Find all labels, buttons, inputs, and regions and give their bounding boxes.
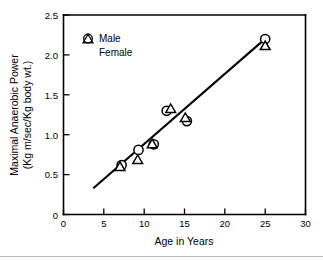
x-axis-tick-labels: 0 5 10 15 20 25 30 <box>61 218 311 229</box>
x-axis-title: Age in Years <box>155 235 214 247</box>
x-tick-label-30: 30 <box>300 218 311 229</box>
y-tick-label-0-5: 0.5 <box>45 169 58 180</box>
x-tick-label-10: 10 <box>139 218 150 229</box>
x-tick-label-5: 5 <box>101 218 106 229</box>
x-tick-label-0: 0 <box>61 218 66 229</box>
data-point-male <box>134 145 143 154</box>
y-axis-title-line2: (Kg m/sec/Kg body wt.) <box>21 61 33 170</box>
y-axis-tick-labels: 0 0.5 1.0 1.5 2.0 2.5 <box>45 10 58 221</box>
y-axis-title: Maximal Anaerobic Power (Kg m/sec/Kg bod… <box>8 54 33 176</box>
data-point-female <box>133 155 143 164</box>
figure-bottom-divider <box>0 256 323 257</box>
figure-root: 0 0.5 1.0 1.5 2.0 2.5 0 5 10 15 20 25 30 <box>0 0 323 260</box>
y-axis-ticks <box>64 15 70 215</box>
y-tick-label-1-0: 1.0 <box>45 130 58 141</box>
y-tick-label-1-5: 1.5 <box>45 90 58 101</box>
y-tick-label-2-5: 2.5 <box>45 10 58 21</box>
x-tick-label-15: 15 <box>179 218 190 229</box>
y-tick-label-2-0: 2.0 <box>45 50 58 61</box>
y-axis-title-line1: Maximal Anaerobic Power <box>8 54 20 176</box>
x-tick-label-20: 20 <box>220 218 231 229</box>
y-tick-label-0: 0 <box>53 210 58 221</box>
x-tick-label-25: 25 <box>260 218 271 229</box>
legend-label-male: Male <box>99 33 121 44</box>
x-axis-ticks <box>64 209 306 215</box>
chart-legend: Male Female <box>83 33 133 58</box>
legend-label-female: Female <box>99 47 133 58</box>
anaerobic-power-scatter-chart: 0 0.5 1.0 1.5 2.0 2.5 0 5 10 15 20 25 30 <box>0 0 323 260</box>
